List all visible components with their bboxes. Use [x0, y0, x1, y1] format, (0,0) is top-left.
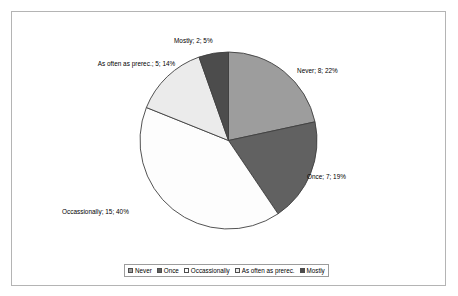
- legend-swatch-icon: [157, 268, 162, 273]
- legend-swatch-icon: [235, 268, 240, 273]
- legend-item-occassionally[interactable]: Occassionally: [184, 267, 230, 274]
- legend-swatch-icon: [300, 268, 305, 273]
- legend-swatch-icon: [184, 268, 189, 273]
- pie-slice-group: [140, 52, 317, 229]
- legend-item-never[interactable]: Never: [128, 267, 152, 274]
- pie-svg: [0, 0, 458, 296]
- legend-item-as-often-as-prerec[interactable]: As often as prerec.: [235, 267, 295, 274]
- data-label-mostly: Mostly; 2; 5%: [174, 37, 213, 45]
- legend-item-once[interactable]: Once: [157, 267, 179, 274]
- legend-label: As often as prerec.: [242, 267, 295, 274]
- legend-swatch-icon: [128, 268, 133, 273]
- pie-chart-figure: Never; 8; 22% Once; 7; 19% Occassionally…: [0, 0, 458, 296]
- data-label-occassionally: Occassionally; 15; 40%: [62, 208, 129, 216]
- chart-legend: NeverOnceOccassionallyAs often as prerec…: [124, 264, 329, 277]
- legend-label: Never: [135, 267, 152, 274]
- legend-label: Once: [164, 267, 179, 274]
- legend-label: Occassionally: [191, 267, 230, 274]
- data-label-as-often-as-prerec: As often as prerec.; 5; 14%: [85, 60, 188, 68]
- data-label-never: Never; 8; 22%: [297, 67, 338, 75]
- legend-label: Mostly: [307, 267, 325, 274]
- legend-item-mostly[interactable]: Mostly: [300, 267, 325, 274]
- plot-area: Never; 8; 22% Once; 7; 19% Occassionally…: [0, 0, 458, 296]
- data-label-once: Once; 7; 19%: [307, 173, 346, 181]
